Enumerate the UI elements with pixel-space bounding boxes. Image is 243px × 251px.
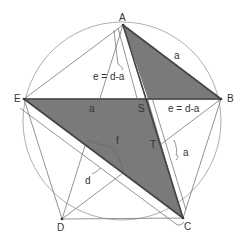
point-label-s: S bbox=[138, 104, 145, 114]
pentagon-diagram: A B C D E S T a e = d-a e = d-a a a f d bbox=[0, 0, 243, 251]
label-a-mid: a bbox=[89, 104, 95, 114]
point-label-t: T bbox=[150, 140, 156, 150]
vertex-label-e: E bbox=[14, 94, 21, 104]
label-f: f bbox=[116, 136, 119, 146]
label-e-right: e = d-a bbox=[168, 104, 199, 114]
vertex-label-c: C bbox=[184, 222, 191, 232]
label-a-right: a bbox=[183, 148, 189, 158]
vertex-label-b: B bbox=[227, 94, 234, 104]
label-e-left: e = d-a bbox=[93, 72, 124, 82]
side-label-a-top: a bbox=[174, 51, 180, 61]
vertex-label-a: A bbox=[119, 13, 126, 23]
label-d: d bbox=[85, 176, 91, 186]
diagram-canvas bbox=[0, 0, 243, 251]
vertex-label-d: D bbox=[57, 223, 64, 233]
